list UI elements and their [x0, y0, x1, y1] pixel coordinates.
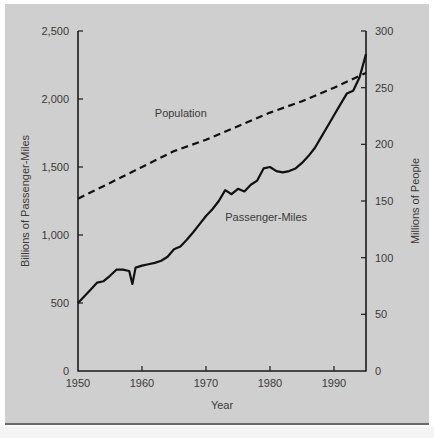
series-annotations: PopulationPassenger-Miles	[155, 107, 308, 223]
y-left-tick-label: 0	[63, 365, 69, 377]
x-tick-label: 1960	[130, 377, 154, 389]
y-axis-right-title: Millions of People	[409, 158, 421, 244]
y-left-tick-label: 1,500	[41, 161, 69, 173]
line-chart: 05001,0001,5002,0002,5000501001502002503…	[0, 0, 434, 438]
y-right-tick-label: 250	[375, 82, 393, 94]
y-right-tick-label: 300	[375, 25, 393, 37]
y-right-tick-label: 200	[375, 138, 393, 150]
y-left-tick-label: 500	[51, 297, 69, 309]
x-tick-label: 1950	[66, 377, 90, 389]
x-axis-title: Year	[211, 399, 234, 411]
y-right-tick-label: 150	[375, 195, 393, 207]
y-right-tick-label: 50	[375, 308, 387, 320]
axes	[78, 31, 366, 372]
y-left-tick-label: 1,000	[41, 229, 69, 241]
annotation-passenger-miles: Passenger-Miles	[225, 211, 307, 223]
series-lines	[78, 54, 366, 303]
x-tick-label: 1980	[258, 377, 282, 389]
y-left-tick-label: 2,500	[41, 25, 69, 37]
y-left-tick-label: 2,000	[41, 93, 69, 105]
annotation-population: Population	[155, 107, 207, 119]
tick-labels: 05001,0001,5002,0002,5000501001502002503…	[41, 25, 393, 389]
x-tick-label: 1970	[194, 377, 218, 389]
y-axis-left-title: Billions of Passenger-Miles	[19, 134, 31, 267]
y-right-tick-label: 0	[375, 365, 381, 377]
axis-titles: Year Billions of Passenger-Miles Million…	[19, 134, 421, 411]
y-right-tick-label: 100	[375, 252, 393, 264]
x-tick-label: 1990	[322, 377, 346, 389]
